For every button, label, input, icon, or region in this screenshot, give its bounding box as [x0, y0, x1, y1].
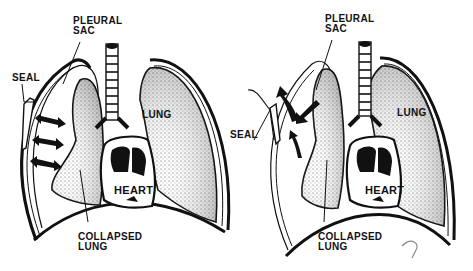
- left-label-lung: LUNG: [142, 110, 172, 120]
- left-label-pleural-sac: PLEURAL SAC: [73, 16, 122, 36]
- right-label-seal: SEAL: [230, 130, 258, 140]
- right-label-collapsed-lung: COLLAPSED LUNG: [318, 232, 382, 252]
- left-panel: [22, 42, 229, 240]
- right-label-lung: LUNG: [397, 108, 427, 118]
- left-heart: [101, 137, 155, 208]
- diagram-stage: PLEURAL SAC SEAL LUNG HEART COLLAPSED LU…: [0, 0, 473, 271]
- left-pressure-arrows: [30, 113, 66, 171]
- left-label-seal: SEAL: [12, 73, 40, 83]
- left-label-collapsed-lung: COLLAPSED LUNG: [78, 232, 142, 252]
- right-panel: [248, 40, 454, 258]
- right-label-pleural-sac: PLEURAL SAC: [325, 14, 374, 34]
- right-label-heart: HEART: [365, 185, 404, 195]
- left-label-heart: HEART: [114, 185, 153, 195]
- right-heart: [347, 137, 401, 208]
